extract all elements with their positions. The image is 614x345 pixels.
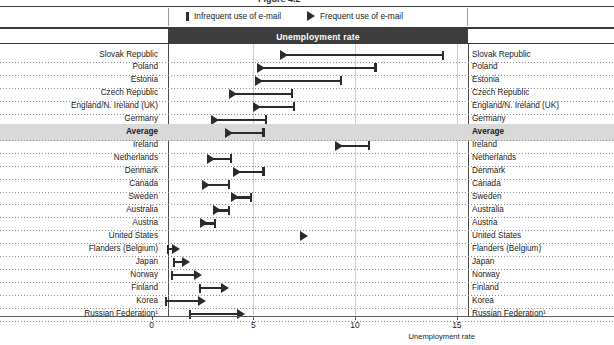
axis-tick-label-0: 0	[149, 320, 154, 330]
row-label-right: Finland	[472, 283, 499, 292]
x-axis-line	[0, 316, 614, 317]
row-label-left: Sweden	[128, 192, 158, 201]
axis-tick-label-10: 10	[350, 320, 359, 330]
row-label-right: Average	[472, 127, 504, 136]
legend-item-infrequent: Infrequent use of e-mail	[186, 11, 281, 21]
row-label-right: Germany	[472, 114, 506, 123]
range-connector	[233, 93, 292, 95]
band-title: Unemployment rate	[168, 32, 468, 42]
range-connector	[215, 119, 266, 121]
band-header: Unemployment rate	[168, 29, 468, 43]
row-label-left: Australia	[126, 205, 158, 214]
row-label-right: Korea	[472, 296, 494, 305]
range-connector	[339, 145, 370, 147]
row-label-right: Australia	[472, 205, 504, 214]
row-label-right: United States	[472, 231, 521, 240]
legend-label-infrequent: Infrequent use of e-mail	[194, 11, 281, 21]
row-label-left: Norway	[130, 270, 158, 279]
row-label-right: Netherlands	[472, 153, 516, 162]
row-label-left: Estonia	[131, 75, 158, 84]
row-label-left: Poland	[133, 62, 159, 71]
row-separator	[0, 321, 614, 322]
legend: Infrequent use of e-mail Frequent use of…	[0, 7, 614, 27]
x-axis-title: Unemployment rate	[409, 332, 475, 341]
row-label-left: Germany	[124, 114, 158, 123]
row-label-left: Czech Republic	[101, 88, 158, 97]
row-label-left: Canada	[129, 179, 158, 188]
row-label-right: England/N. Ireland (UK)	[472, 101, 559, 110]
legend-label-frequent: Frequent use of e-mail	[320, 11, 403, 21]
table-row[interactable]: Russian Federation¹Russian Federation¹	[0, 305, 614, 322]
range-connector	[229, 132, 264, 134]
row-label-right: Flanders (Belgium)	[472, 244, 541, 253]
row-label-left: Austria	[133, 218, 158, 227]
row-label-right: Austria	[472, 218, 497, 227]
plot-area: Slovak RepublicSlovak RepublicPolandPola…	[0, 44, 614, 316]
row-label-left: Average	[126, 127, 158, 136]
row-label-left: United States	[109, 231, 158, 240]
range-connector	[259, 80, 340, 82]
axis-tick-label-5: 5	[251, 320, 256, 330]
row-label-right: Denmark	[472, 166, 505, 175]
row-label-left: Flanders (Belgium)	[89, 244, 158, 253]
figure-caption-text: Figure 4.2	[258, 0, 301, 4]
row-label-right: Sweden	[472, 192, 502, 201]
row-label-left: Finland	[131, 283, 158, 292]
range-connector	[257, 106, 294, 108]
row-label-left: Slovak Republic	[99, 50, 158, 59]
range-connector	[261, 67, 375, 69]
row-label-right: Estonia	[472, 75, 499, 84]
axis-tick-label-15: 15	[452, 320, 461, 330]
range-connector	[166, 300, 203, 302]
row-label-left: Japan	[136, 257, 158, 266]
row-label-right: Slovak Republic	[472, 50, 531, 59]
row-label-right: Norway	[472, 270, 500, 279]
frequent-marker	[237, 309, 245, 319]
row-label-left: England/N. Ireland (UK)	[71, 101, 158, 110]
row-label-right: Czech Republic	[472, 88, 529, 97]
row-label-right: Japan	[472, 257, 494, 266]
row-label-right: Canada	[472, 179, 501, 188]
row-label-right: Poland	[472, 62, 498, 71]
range-connector	[190, 313, 241, 315]
triangle-icon	[307, 11, 315, 21]
bar-icon	[186, 12, 189, 21]
row-label-right: Ireland	[472, 140, 497, 149]
range-connector	[284, 54, 443, 56]
row-label-left: Korea	[136, 296, 158, 305]
row-label-left: Denmark	[125, 166, 158, 175]
row-label-left: Netherlands	[114, 153, 158, 162]
row-label-left: Ireland	[133, 140, 158, 149]
legend-item-frequent: Frequent use of e-mail	[307, 11, 403, 21]
